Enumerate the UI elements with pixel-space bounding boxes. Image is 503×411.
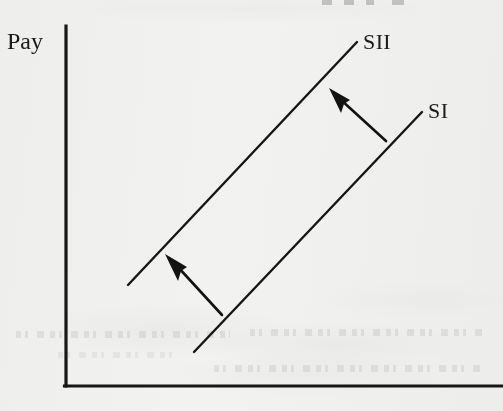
upper-shift-arrow-shaft bbox=[340, 99, 386, 141]
diagram-canvas bbox=[0, 0, 503, 411]
scanned-figure: Pay SII SI bbox=[0, 0, 503, 411]
upper-shift-arrow-head bbox=[329, 88, 350, 113]
y-axis-label: Pay bbox=[7, 29, 43, 53]
upper-shift-arrow bbox=[329, 88, 386, 141]
lower-shift-arrow-head bbox=[165, 254, 187, 281]
curve-label-si: SI bbox=[428, 100, 448, 122]
curve-label-sii: SII bbox=[363, 31, 391, 53]
supply-curve-si bbox=[194, 112, 422, 352]
lower-shift-arrow bbox=[165, 254, 222, 315]
supply-curve-sii bbox=[128, 42, 357, 285]
lower-shift-arrow-shaft bbox=[177, 266, 222, 315]
